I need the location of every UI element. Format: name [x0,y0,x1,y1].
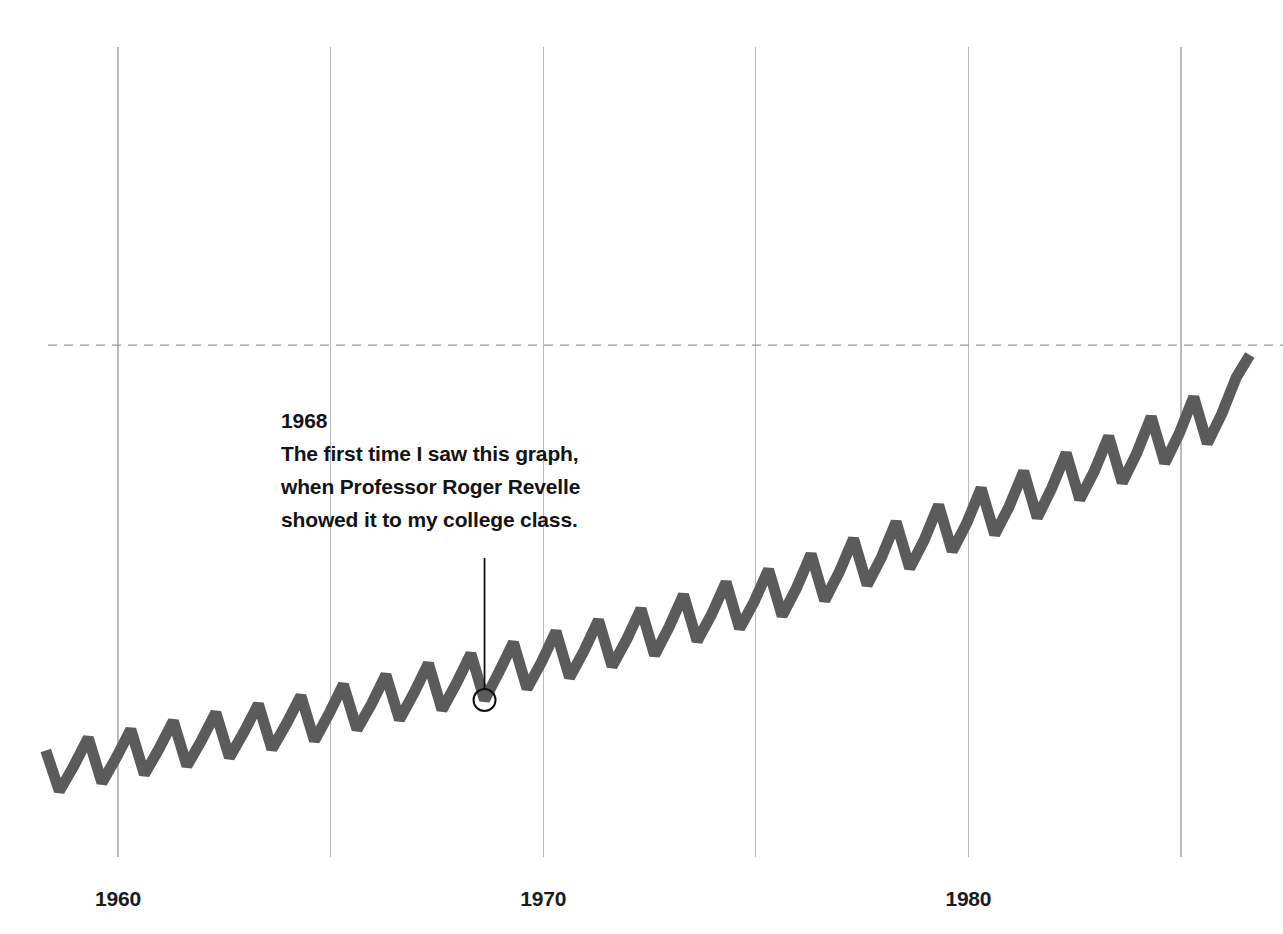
x-tick-label-1970: 1970 [520,887,566,910]
x-tick-label-1980: 1980 [945,887,991,910]
keeling-curve-chart: 196019701980 1968 The first time I saw t… [0,0,1283,934]
x-tick-label-1960: 1960 [95,887,141,910]
annotation-line-1: The first time I saw this graph, [281,437,681,470]
annotation-line-3: showed it to my college class. [281,503,681,536]
annotation-year: 1968 [281,404,681,437]
annotation-line-2: when Professor Roger Revelle [281,470,681,503]
x-axis-tick-labels: 196019701980 [95,887,991,910]
annotation-callout: 1968 The first time I saw this graph, wh… [281,404,681,536]
